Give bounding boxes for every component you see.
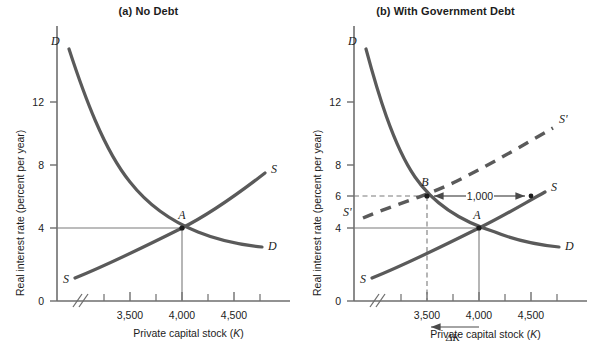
figure-container: (a) No Debt Real interest rate (percent … [0,0,594,348]
y-tick-label-12: 12 [32,96,44,108]
y-tick-label-6: 6 [335,190,341,202]
supply-curve-label-left: S [360,272,366,286]
point-B-label: B [421,175,429,189]
demand-curve [366,49,559,247]
x-tick-label-3500: 3,500 [414,309,440,321]
panel-a-x-axis-title: Private capital stock (K) [0,327,337,339]
y-tick-label-8: 8 [335,159,341,171]
demand-curve-label-right: D [564,239,574,253]
supply-shifted-label-right: S' [559,112,568,126]
point-A-marker [179,225,184,230]
supply-curve [75,173,265,278]
demand-curve-label-right: D [267,239,277,253]
x-tick-label-4000: 4,000 [169,309,195,321]
panel-with-government-debt: (b) With Government Debt Real interest r… [297,0,594,348]
panel-a-plot: 0 4 8 12 3,500 4,000 4,500 [0,0,297,348]
y-tick-label-4: 4 [38,222,44,234]
panel-no-debt: (a) No Debt Real interest rate (percent … [0,0,297,348]
panel-b-plot: 0 4 6 8 12 3,500 4,000 4,500 [297,0,594,348]
supply-shifted-label-left: S' [343,205,352,219]
x-axis-title-close: ) [537,328,541,340]
x-tick-label-4000: 4,000 [466,309,492,321]
demand-curve-label-top: D [347,34,357,48]
x-tick-label-4500: 4,500 [221,309,247,321]
supply-curve-label-right: S [271,162,277,176]
point-B-marker [424,193,429,198]
panel-b-x-axis-title: Private capital stock (K) [297,328,594,340]
x-tick-label-3500: 3,500 [117,309,143,321]
y-tick-label-12: 12 [329,96,341,108]
supply-reference-marker [529,194,534,199]
supply-curve-label-left: S [63,272,69,286]
supply-curve [372,192,545,278]
x-axis-title-close: ) [240,327,244,339]
point-A-marker [476,225,481,230]
y-tick-label-4: 4 [335,222,341,234]
demand-curve-label-top: D [50,34,60,48]
point-A-label: A [177,208,186,222]
y-tick-label-8: 8 [38,159,44,171]
y-tick-label-0: 0 [38,295,44,307]
x-axis-title-text: Private capital stock ( [430,328,530,340]
supply-curve-label-right: S [551,180,557,194]
x-axis-title-text: Private capital stock ( [133,327,233,339]
demand-curve [69,49,262,247]
crowding-gap-label: 1,000 [467,190,493,202]
point-A-label: A [472,208,481,222]
x-tick-label-4500: 4,500 [518,309,544,321]
y-tick-label-0: 0 [335,295,341,307]
